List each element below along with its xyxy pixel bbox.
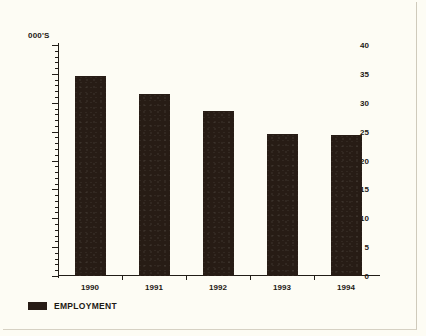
legend-swatch-employment xyxy=(28,302,47,310)
bar xyxy=(267,134,298,276)
x-tick-label: 1990 xyxy=(81,283,99,292)
bar xyxy=(139,94,170,276)
bar-chart: 000'S 0510152025303540 19901991199219931… xyxy=(0,0,426,336)
bar-series-employment xyxy=(58,45,378,276)
x-tick xyxy=(186,276,187,280)
chart-legend: EMPLOYMENT xyxy=(28,301,117,311)
bar xyxy=(203,111,234,276)
y-tick-major xyxy=(52,276,58,277)
bar xyxy=(75,76,106,276)
x-tick-label: 1994 xyxy=(337,283,355,292)
x-tick xyxy=(314,276,315,280)
legend-label-employment: EMPLOYMENT xyxy=(54,301,117,311)
bar xyxy=(331,135,362,276)
plot-area: 0510152025303540 19901991199219931994 xyxy=(58,45,378,276)
x-tick-label: 1993 xyxy=(273,283,291,292)
y-axis-unit-label: 000'S xyxy=(28,31,50,40)
x-tick xyxy=(250,276,251,280)
x-tick-label: 1992 xyxy=(209,283,227,292)
x-tick-label: 1991 xyxy=(145,283,163,292)
x-tick xyxy=(122,276,123,280)
